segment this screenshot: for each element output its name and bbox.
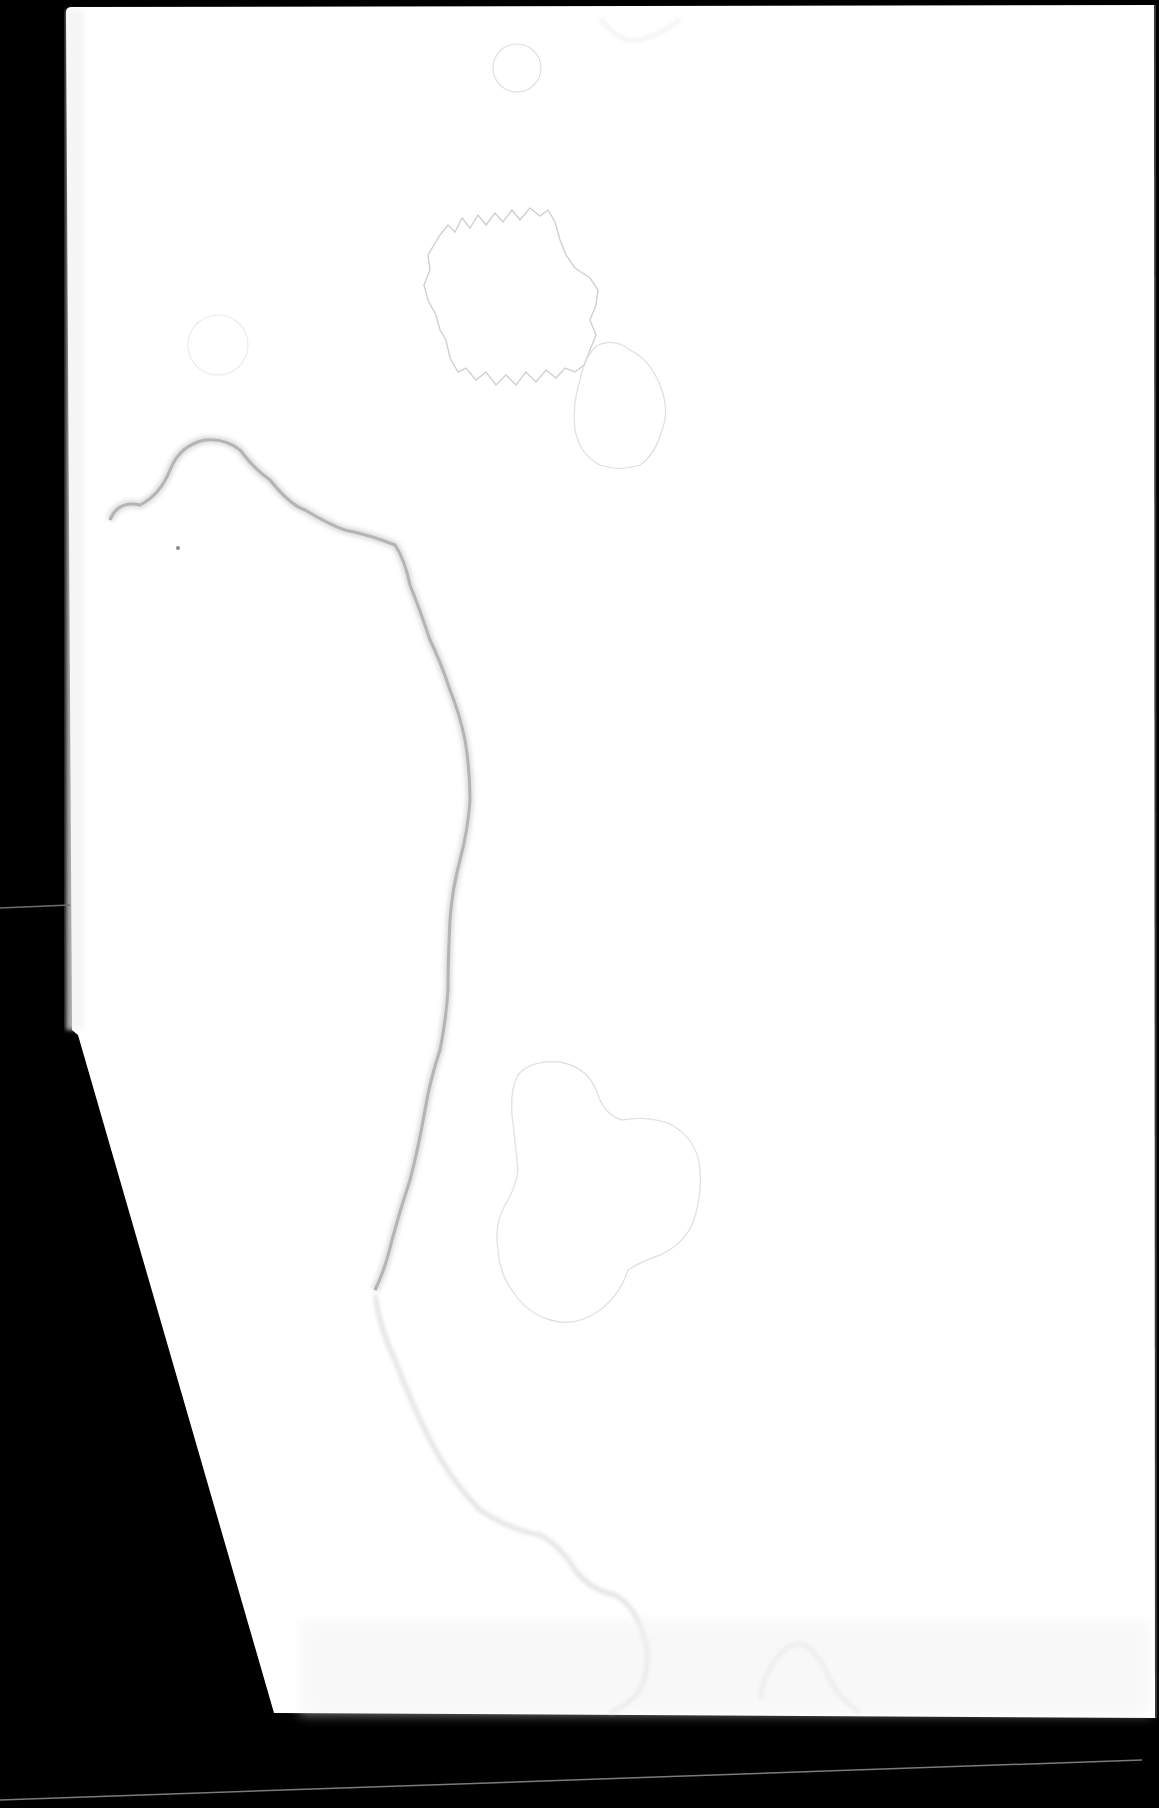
bottom-paper-shading [300, 1620, 1150, 1715]
paper-speck [176, 546, 180, 550]
paper-sheet [66, 5, 1156, 1718]
scanned-page-canvas [0, 0, 1159, 1808]
paper-edge-shadow [66, 10, 84, 1030]
scanned-sheet-graphic [0, 0, 1159, 1808]
paper-right-edge [1155, 5, 1156, 1718]
